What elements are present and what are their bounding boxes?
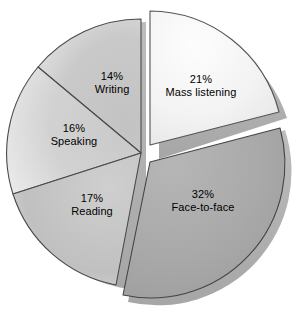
pie-chart-canvas: [0, 0, 303, 312]
slice-percent-speaking: 16%: [36, 122, 112, 135]
slice-label-reading: 17% Reading: [56, 192, 128, 218]
slice-percent-face-to-face: 32%: [159, 188, 247, 201]
slice-name-mass-listening: Mass listening: [159, 86, 243, 99]
slice-name-face-to-face: Face-to-face: [159, 201, 247, 214]
slice-percent-writing: 14%: [78, 70, 146, 83]
slice-name-reading: Reading: [56, 205, 128, 218]
slice-label-writing: 14% Writing: [78, 70, 146, 96]
slice-name-speaking: Speaking: [36, 135, 112, 148]
slice-label-mass-listening: 21% Mass listening: [159, 73, 243, 99]
slice-label-face-to-face: 32% Face-to-face: [159, 188, 247, 214]
slice-percent-reading: 17%: [56, 192, 128, 205]
slice-name-writing: Writing: [78, 83, 146, 96]
slice-label-speaking: 16% Speaking: [36, 122, 112, 148]
pie-chart-figure: 21% Mass listening 32% Face-to-face 17% …: [0, 0, 303, 312]
slice-percent-mass-listening: 21%: [159, 73, 243, 86]
